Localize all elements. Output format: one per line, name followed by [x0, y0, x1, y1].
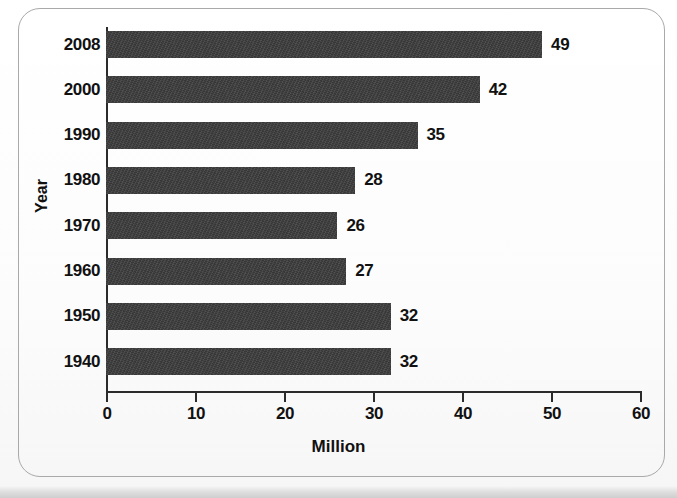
y-tick-label-slot: 1990 [4, 122, 100, 149]
x-tick-label: 40 [454, 404, 472, 424]
x-tick-label: 10 [187, 404, 205, 424]
bar-row: 197026 [106, 212, 640, 239]
x-tick-label: 50 [543, 404, 561, 424]
x-tick-mark [640, 391, 642, 402]
y-tick-label-slot: 1960 [4, 258, 100, 285]
y-tick-label: 1960 [64, 261, 100, 281]
bar-value-label: 28 [364, 170, 382, 190]
chart-page: 2008492000421990351980281970261960271950… [0, 0, 677, 498]
y-axis-title: Year [33, 179, 51, 213]
bar-row: 196027 [106, 258, 640, 285]
y-tick-label: 1990 [64, 125, 100, 145]
scan-edge-shadow [0, 486, 677, 498]
bar-value-label: 49 [551, 35, 569, 55]
x-tick-label: 0 [102, 404, 111, 424]
y-tick-label: 2000 [64, 80, 100, 100]
bar [106, 258, 346, 285]
y-tick-label-slot: 2000 [4, 76, 100, 103]
bar-value-label: 42 [489, 80, 507, 100]
x-tick-mark [284, 391, 286, 402]
bar-row: 199035 [106, 122, 640, 149]
bar [106, 31, 542, 58]
bar-value-label: 35 [427, 125, 445, 145]
bar [106, 76, 480, 103]
y-tick-label-slot: 1950 [4, 303, 100, 330]
x-tick-mark [106, 391, 108, 402]
bar-row: 200042 [106, 76, 640, 103]
bar-row: 194032 [106, 348, 640, 375]
bar-row: 195032 [106, 303, 640, 330]
bar-value-label: 27 [355, 261, 373, 281]
y-tick-label: 1940 [64, 352, 100, 372]
x-tick-mark [195, 391, 197, 402]
y-tick-label-slot: 1980 [4, 167, 100, 194]
bar-value-label: 32 [400, 306, 418, 326]
plot-area: 2008492000421990351980281970261960271950… [106, 27, 640, 390]
y-tick-label-slot: 1970 [4, 212, 100, 239]
y-tick-label-slot: 2008 [4, 31, 100, 58]
x-tick-mark [551, 391, 553, 402]
bar-value-label: 32 [400, 352, 418, 372]
bar-row: 198028 [106, 167, 640, 194]
x-tick-mark [373, 391, 375, 402]
x-tick-label: 20 [276, 404, 294, 424]
bar [106, 348, 391, 375]
y-tick-label: 1950 [64, 306, 100, 326]
y-tick-label: 1970 [64, 216, 100, 236]
x-tick-label: 30 [365, 404, 383, 424]
bar [106, 122, 418, 149]
y-tick-label: 1980 [64, 170, 100, 190]
x-tick-label: 60 [632, 404, 650, 424]
bar [106, 167, 355, 194]
bar [106, 303, 391, 330]
x-tick-mark [462, 391, 464, 402]
y-tick-label-slot: 1940 [4, 348, 100, 375]
bar [106, 212, 337, 239]
x-axis-title: Million [0, 437, 677, 457]
y-tick-label: 2008 [64, 35, 100, 55]
bar-value-label: 26 [346, 216, 364, 236]
bar-row: 200849 [106, 31, 640, 58]
